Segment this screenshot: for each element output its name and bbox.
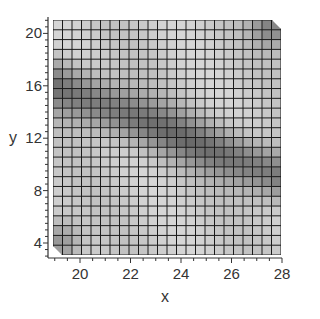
surface-cell <box>262 177 272 187</box>
surface-cell <box>272 167 282 177</box>
surface-cell <box>158 138 168 148</box>
surface-cell <box>82 216 92 226</box>
surface-cell <box>215 138 225 148</box>
surface-cell <box>186 49 196 59</box>
surface-cell <box>82 196 92 206</box>
surface-cell <box>272 177 282 187</box>
surface-cell <box>63 206 73 216</box>
surface-cell <box>82 186 92 196</box>
surface-cell <box>243 49 253 59</box>
surface-cell <box>129 20 139 30</box>
surface-cell <box>101 69 111 79</box>
surface-cell <box>253 157 263 167</box>
surface-cell <box>148 20 158 30</box>
surface-cell <box>82 40 92 50</box>
surface-cell <box>243 98 253 108</box>
surface-cell <box>139 216 149 226</box>
surface-cell <box>205 226 215 236</box>
surface-cell <box>110 40 120 50</box>
surface-cell <box>215 186 225 196</box>
surface-cell <box>215 89 225 99</box>
surface-cell <box>234 138 244 148</box>
surface-cell <box>234 216 244 226</box>
surface-cell <box>129 89 139 99</box>
surface-cell <box>177 128 187 138</box>
surface-cell <box>196 177 206 187</box>
surface-cell <box>139 235 149 245</box>
surface-cell <box>148 216 158 226</box>
surface-cell <box>224 206 234 216</box>
surface-cell <box>243 167 253 177</box>
surface-cell <box>262 98 272 108</box>
x-axis-label: x <box>161 288 169 305</box>
surface-cell <box>177 157 187 167</box>
surface-cell <box>205 128 215 138</box>
surface-cell <box>262 138 272 148</box>
surface-cell <box>91 177 101 187</box>
surface-cell <box>186 79 196 89</box>
surface-cell <box>53 196 63 206</box>
surface-cell <box>234 20 244 30</box>
surface-cell <box>205 216 215 226</box>
surface-cell <box>215 20 225 30</box>
surface-cell <box>186 20 196 30</box>
surface-cell <box>148 206 158 216</box>
surface-cell <box>82 206 92 216</box>
surface-cell <box>72 206 82 216</box>
surface-cell <box>139 147 149 157</box>
surface-cell <box>72 108 82 118</box>
surface-cell <box>272 49 282 59</box>
surface-cell <box>243 69 253 79</box>
surface-cell <box>148 98 158 108</box>
surface-cell <box>205 98 215 108</box>
surface-cell <box>72 98 82 108</box>
surface-cell <box>215 206 225 216</box>
surface-cell <box>72 196 82 206</box>
surface-cell <box>186 186 196 196</box>
surface-cell <box>91 49 101 59</box>
surface-cell <box>234 98 244 108</box>
surface-cell <box>120 118 130 128</box>
surface-cell <box>139 206 149 216</box>
surface-cell <box>253 196 263 206</box>
surface-cell <box>186 30 196 40</box>
surface-cell <box>234 30 244 40</box>
surface-cell <box>120 40 130 50</box>
surface-cell <box>63 177 73 187</box>
surface-cell <box>272 196 282 206</box>
surface-cell <box>234 118 244 128</box>
surface-cell <box>101 118 111 128</box>
surface-cell <box>91 157 101 167</box>
surface-cell <box>196 226 206 236</box>
surface-cell <box>139 30 149 40</box>
surface-cell <box>205 235 215 245</box>
surface-cell <box>205 206 215 216</box>
surface-cell <box>272 30 282 40</box>
surface-cell <box>224 235 234 245</box>
surface-cell <box>253 235 263 245</box>
surface-cell <box>139 20 149 30</box>
surface-cell <box>262 30 272 40</box>
surface-cell <box>72 226 82 236</box>
surface-cell <box>234 196 244 206</box>
surface-cell <box>272 20 282 30</box>
surface-cell <box>205 79 215 89</box>
surface-cell <box>148 49 158 59</box>
surface-cell <box>253 216 263 226</box>
surface-cell <box>224 245 234 255</box>
surface-cell <box>139 118 149 128</box>
surface-cell <box>167 128 177 138</box>
surface-cell <box>53 186 63 196</box>
surface-cell <box>234 40 244 50</box>
surface-cell <box>224 89 234 99</box>
y-axis: 48121620 <box>25 17 48 258</box>
surface-cell <box>262 235 272 245</box>
surface-cell <box>101 20 111 30</box>
surface-cell <box>101 147 111 157</box>
surface-cell <box>262 206 272 216</box>
surface-cell <box>91 118 101 128</box>
surface-cell <box>120 235 130 245</box>
surface-cell <box>91 216 101 226</box>
surface-cell <box>205 59 215 69</box>
surface-cell <box>101 98 111 108</box>
